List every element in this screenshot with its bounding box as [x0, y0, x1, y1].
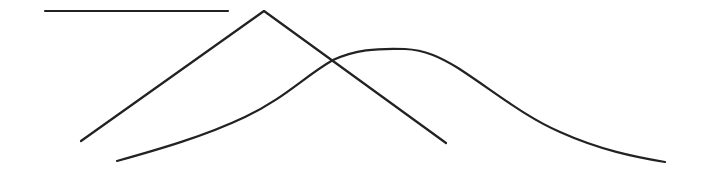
triangular-peak: [81, 11, 446, 143]
bell-curve: [117, 49, 665, 162]
diagram-canvas: [0, 0, 705, 177]
line-diagram: [0, 0, 705, 177]
